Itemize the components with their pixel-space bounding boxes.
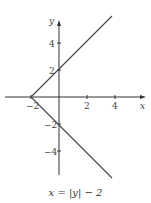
x-tick-label: 2 (84, 101, 90, 111)
y-tick-label: −2 (44, 120, 57, 130)
lower-branch-line (31, 97, 112, 178)
y-tick-label: 4 (49, 39, 55, 49)
y-tick-label: −4 (44, 147, 58, 157)
upper-branch-line (31, 16, 112, 97)
x-tick-label: −2 (26, 101, 39, 111)
y-axis-label: y (48, 16, 55, 26)
plot-canvas: −2 2 4 x 4 2 −2 −4 y (0, 0, 151, 203)
y-tick-label: 2 (49, 66, 55, 76)
x-axis-label: x (140, 101, 145, 111)
x-axis-arrow-icon (140, 95, 146, 99)
x-tick-label: 4 (112, 101, 118, 111)
y-axis-arrow-icon (57, 20, 61, 26)
chart-caption: x = |y| − 2 (0, 187, 151, 198)
